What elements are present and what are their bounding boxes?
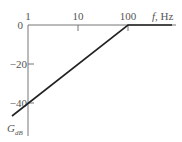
x-tick-label-1: 1 bbox=[25, 10, 31, 22]
y-tick-label-minus20: −20 bbox=[10, 58, 28, 70]
x-axis-label: f, Hz bbox=[152, 10, 174, 22]
y-axis-label-sub: dB bbox=[15, 129, 24, 137]
x-axis-label-unit: , Hz bbox=[155, 10, 173, 22]
magnitude-line bbox=[12, 25, 172, 116]
y-tick-label-0: 0 bbox=[18, 19, 24, 31]
y-axis-label-G: G bbox=[7, 122, 15, 134]
x-tick-label-100: 100 bbox=[120, 10, 137, 22]
bode-magnitude-chart: 1 10 100 f, Hz 0 −20 −40 GdB bbox=[0, 0, 182, 142]
y-tick-label-minus40: −40 bbox=[10, 97, 28, 109]
x-tick-label-10: 10 bbox=[73, 10, 85, 22]
y-axis-label: GdB bbox=[7, 122, 23, 137]
